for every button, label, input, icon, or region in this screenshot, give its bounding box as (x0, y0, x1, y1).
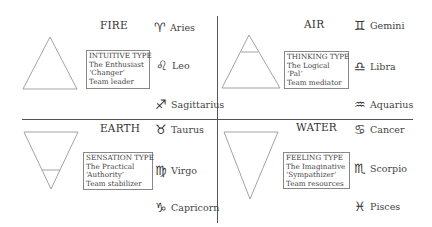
sign-leo: ♌︎ Leo (156, 58, 190, 73)
type-team-role: Team stabilizer (86, 180, 150, 189)
taurus-icon: ♉︎ (155, 122, 167, 137)
type-box-air: THINKING TYPE The Logical ‘Pal’ Team med… (284, 51, 349, 89)
sign-taurus: ♉︎ Taurus (155, 122, 204, 137)
sign-label: Cancer (370, 124, 405, 135)
aquarius-icon: ♒︎ (354, 97, 366, 112)
type-box-water: FEELING TYPE The Imaginative ‘Sympathize… (283, 152, 350, 189)
element-title-earth: EARTH (100, 122, 140, 134)
sign-label: Taurus (171, 124, 204, 135)
leo-icon: ♌︎ (156, 58, 168, 73)
virgo-icon: ♍︎ (155, 163, 167, 178)
libra-icon: ♎︎ (354, 59, 366, 74)
sign-capricorn: ♑︎ Capricorn (155, 200, 219, 215)
sign-gemini: ♊︎ Gemini (354, 18, 404, 33)
aries-icon: ♈︎ (154, 20, 166, 35)
sign-label: Aquarius (370, 99, 413, 110)
capricorn-icon: ♑︎ (155, 200, 167, 215)
element-title-water: WATER (296, 121, 337, 133)
sign-sagittarius: ♐︎ Sagittarius (155, 97, 224, 112)
sign-label: Aries (170, 22, 195, 33)
sagittarius-icon: ♐︎ (155, 97, 167, 112)
sign-label: Libra (370, 61, 396, 72)
type-team-role: Team resources (286, 180, 347, 189)
water-triangle-icon (224, 132, 278, 199)
sign-label: Pisces (370, 201, 400, 212)
element-title-air: AIR (304, 18, 324, 30)
sign-aquarius: ♒︎ Aquarius (354, 97, 413, 112)
sign-libra: ♎︎ Libra (354, 59, 396, 74)
pisces-icon: ♓︎ (354, 199, 366, 214)
sign-cancer: ♋︎ Cancer (354, 122, 405, 137)
type-box-earth: SENSATION TYPE The Practical ‘Authority’… (83, 152, 153, 190)
sign-scorpio: ♏︎ Scorpio (354, 161, 407, 176)
fire-triangle-icon (23, 37, 77, 89)
sign-pisces: ♓︎ Pisces (354, 199, 400, 214)
gemini-icon: ♊︎ (354, 18, 366, 33)
sign-label: Capricorn (171, 202, 219, 213)
earth-triangle-icon (24, 132, 78, 189)
type-box-fire: INTUITIVE TYPE The Enthusiast ‘Changer’ … (86, 50, 150, 89)
scorpio-icon: ♏︎ (354, 161, 366, 176)
element-symbols (0, 0, 432, 227)
sign-label: Scorpio (370, 163, 407, 174)
sign-label: Virgo (171, 165, 197, 176)
sign-virgo: ♍︎ Virgo (155, 163, 197, 178)
sign-label: Gemini (370, 20, 404, 31)
cancer-icon: ♋︎ (354, 122, 366, 137)
type-team-role: Team mediator (287, 79, 346, 88)
air-triangle-icon (222, 35, 280, 88)
sign-aries: ♈︎ Aries (154, 20, 195, 35)
element-title-fire: FIRE (100, 19, 128, 31)
sign-label: Sagittarius (171, 99, 224, 110)
sign-label: Leo (172, 60, 190, 71)
type-team-role: Team leader (89, 78, 147, 87)
